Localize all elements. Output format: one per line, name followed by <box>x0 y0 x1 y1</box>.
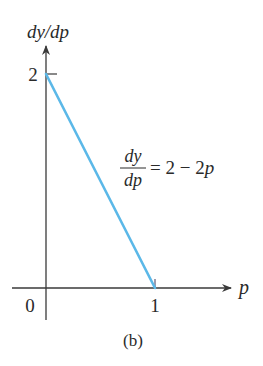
equation-rhs: = 2 − 2p <box>150 157 214 178</box>
x-tick-label-1: 1 <box>150 295 160 316</box>
chart-figure: dy/dp 2 0 1 p dy dp = 2 − 2p (b) <box>0 0 263 366</box>
equation-rhs-var: p <box>203 157 215 178</box>
x-axis-label: p <box>237 276 249 299</box>
y-tick-label-2: 2 <box>28 64 38 85</box>
origin-label: 0 <box>25 295 35 316</box>
equation-rhs-text: = 2 − 2 <box>150 157 205 178</box>
y-axis-label: dy/dp <box>27 21 69 42</box>
equation-annotation: dy dp = 2 − 2p <box>120 146 214 190</box>
figure-caption: (b) <box>123 331 143 350</box>
equation-numerator: dy <box>125 146 142 166</box>
equation-denominator: dp <box>124 170 142 190</box>
